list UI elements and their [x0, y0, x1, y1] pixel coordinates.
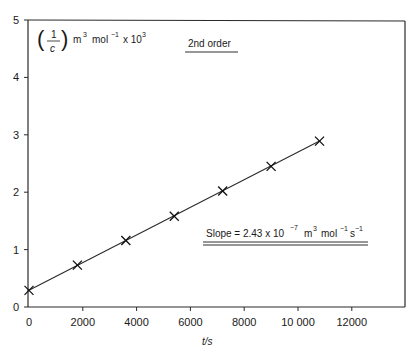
fraction-numerator: 1 — [51, 29, 57, 40]
data-points — [25, 137, 325, 295]
slope-unit-m-exp: 3 — [313, 225, 317, 232]
chart-title: 2nd order — [185, 38, 238, 52]
x-marker-icon — [315, 137, 324, 146]
x-tick-label: 8000 — [232, 316, 256, 328]
slope-unit-s-exp: −1 — [355, 225, 363, 232]
slope-text: Slope = 2.43 x 10 — [206, 228, 285, 239]
y-axis-label: ( 1 c ) m 3 mol −1 x 10 3 — [37, 26, 146, 54]
y-tick-label: 0 — [13, 301, 19, 313]
unit-mol-exp: −1 — [111, 31, 119, 38]
unit-m-exp: 3 — [83, 31, 87, 38]
slope-unit-mol-exp: −1 — [340, 225, 348, 232]
y-tick-label: 4 — [13, 71, 19, 83]
unit-m: m — [73, 34, 81, 45]
x-marker-icon — [267, 162, 276, 171]
y-tick-label: 3 — [13, 129, 19, 141]
x-axis-label: t/s — [202, 336, 213, 347]
x-tick-label: 6000 — [178, 316, 202, 328]
x-marker-icon — [218, 187, 227, 196]
right-paren: ) — [61, 26, 68, 51]
plot-frame — [28, 20, 405, 307]
x-tick-label: 10 000 — [281, 316, 315, 328]
slope-exp: −7 — [290, 224, 298, 231]
unit-mol: mol — [92, 34, 108, 45]
y-tick-label: 1 — [13, 244, 19, 256]
x-axis-ticks: 0200040006000800010 00012000 — [26, 307, 367, 328]
x-marker-icon — [25, 286, 34, 295]
chart: 012345 0200040006000800010 00012000 ( 1 … — [0, 0, 417, 357]
unit-multiplier: x 10 — [123, 34, 142, 45]
title-text: 2nd order — [188, 38, 231, 49]
x-tick-label: 2000 — [71, 316, 95, 328]
slope-unit-m: m — [304, 228, 312, 239]
x-marker-icon — [170, 212, 179, 221]
slope-unit-mol: mol — [321, 228, 337, 239]
fraction-denominator: c — [50, 43, 55, 54]
slope-annotation: Slope = 2.43 x 10 −7 m 3 mol −1 s −1 — [203, 224, 368, 245]
x-tick-label: 4000 — [124, 316, 148, 328]
y-axis-ticks: 012345 — [13, 14, 28, 313]
left-paren: ( — [37, 26, 45, 51]
y-tick-label: 2 — [13, 186, 19, 198]
x-tick-label: 12000 — [337, 316, 368, 328]
unit-multiplier-exp: 3 — [142, 31, 146, 38]
x-marker-icon — [73, 261, 82, 270]
x-marker-icon — [121, 236, 130, 245]
y-tick-label: 5 — [13, 14, 19, 26]
x-tick-label: 0 — [26, 316, 32, 328]
